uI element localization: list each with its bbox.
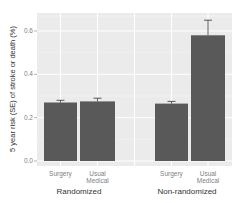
x-label-randomized-surgery: Surgery [49, 170, 73, 178]
bar-randomized-surgery [44, 103, 77, 162]
x-label-nonrandomized-usual-line2: Medical [197, 177, 220, 184]
group-label-randomized: Randomized [57, 187, 102, 196]
x-label-nonrandomized-usual-line1: Usual [200, 170, 217, 177]
chart: 0.0 0.2 0.4 0.6 5 year risk (SE) of stro… [0, 0, 243, 203]
bar-nonrandomized-usual-medical [191, 35, 225, 161]
x-label-nonrandomized-surgery: Surgery [160, 170, 184, 178]
x-label-randomized-usual-line2: Medical [86, 177, 109, 184]
y-axis-label: 5 year risk (SE) of stroke or death (%) [8, 26, 17, 152]
group-label-nonrandomized: Non-randomized [157, 187, 216, 196]
y-tick-3: 0.6 [24, 27, 33, 34]
y-tick-marks [34, 31, 37, 161]
y-tick-1: 0.2 [24, 114, 33, 121]
y-tick-0: 0.0 [24, 157, 33, 164]
bar-nonrandomized-surgery [155, 104, 188, 161]
bar-randomized-usual-medical [80, 101, 115, 161]
y-tick-2: 0.4 [24, 70, 33, 77]
x-label-randomized-usual-line1: Usual [89, 170, 106, 177]
